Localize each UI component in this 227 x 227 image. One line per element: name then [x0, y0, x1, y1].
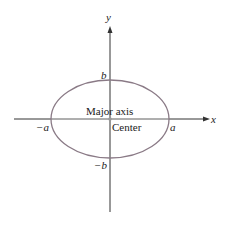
x-axis-label: x — [211, 114, 216, 125]
center-label: Center — [112, 122, 141, 133]
vertex-label-right: a — [170, 122, 176, 133]
major-axis-label: Major axis — [86, 106, 133, 117]
vertex-label-top: b — [101, 70, 107, 81]
y-axis-arrow-icon — [108, 26, 113, 33]
y-axis-label: y — [106, 12, 111, 23]
x-axis-arrow-icon — [203, 117, 210, 122]
vertex-label-bottom: −b — [94, 160, 107, 171]
vertex-label-left: −a — [36, 122, 49, 133]
